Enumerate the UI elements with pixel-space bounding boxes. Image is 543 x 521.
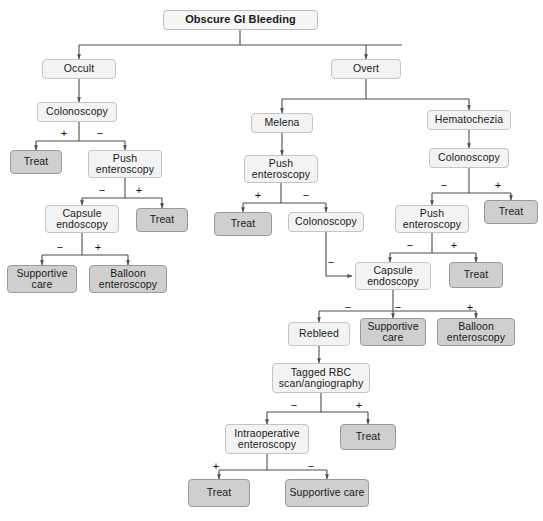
node-treat_l1: Treat [10, 150, 62, 174]
edge-colonoscopyM-capsule [326, 232, 352, 276]
node-occult: Occult [42, 59, 116, 79]
node-treat_b1: Treat [340, 424, 396, 450]
node-treat_m: Treat [214, 212, 272, 236]
node-balloon_c: Balloon enteroscopy [437, 318, 515, 346]
edge-sign-label: + [492, 180, 504, 191]
node-push_m: Push enteroscopy [244, 155, 318, 183]
node-colonoscopy_m: Colonoscopy [288, 212, 364, 232]
node-push_l: Push enteroscopy [88, 150, 162, 178]
edge-sign-label: − [288, 400, 300, 411]
edge-sign-label: + [133, 185, 145, 196]
node-supportive_l: Supportive care [7, 265, 77, 293]
node-treat_b2: Treat [188, 479, 250, 507]
node-push_r: Push enteroscopy [395, 205, 469, 233]
edge-sign-label: − [96, 185, 108, 196]
node-hematochezia: Hematochezia [427, 110, 511, 130]
edge-sign-label: + [92, 242, 104, 253]
node-capsule_c: Capsule endoscopy [355, 262, 431, 290]
node-overt: Overt [331, 59, 401, 79]
node-supportive_b: Supportive care [285, 479, 369, 507]
edge-sign-label: + [210, 461, 222, 472]
edge-sign-label: − [94, 128, 106, 139]
edge-sign-label: + [252, 190, 264, 201]
edge-sign-label: − [300, 190, 312, 201]
edge-sign-label: + [58, 128, 70, 139]
node-tagged_rbc: Tagged RBC scan/angiography [272, 363, 370, 393]
flowchart-canvas: Obscure GI BleedingOccultOvertColonoscop… [0, 0, 543, 521]
node-treat_l2: Treat [136, 208, 188, 232]
edge-sign-label: + [448, 240, 460, 251]
edge-sign-label: − [305, 461, 317, 472]
node-balloon_l: Balloon enteroscopy [89, 265, 167, 293]
node-melena: Melena [251, 113, 313, 133]
node-supportive_c: Supportive care [360, 318, 426, 346]
node-intraop: Intraoperative enteroscopy [225, 424, 309, 454]
node-treat_r2: Treat [449, 262, 503, 288]
node-colonoscopy_r: Colonoscopy [429, 148, 509, 168]
node-colonoscopy_l: Colonoscopy [37, 102, 117, 122]
edge-sign-label: − [438, 180, 450, 191]
edge-sign-label: − [392, 302, 404, 313]
edge-sign-label: + [353, 400, 365, 411]
edge-sign-label: − [54, 242, 66, 253]
edge-sign-label: − [342, 302, 354, 313]
edge-sign-label: − [404, 240, 416, 251]
edge-sign-label: + [464, 302, 476, 313]
node-root: Obscure GI Bleeding [163, 10, 318, 30]
node-capsule_l: Capsule endoscopy [45, 205, 119, 233]
node-rebleed: Rebleed [288, 322, 350, 346]
edge-sign-label: − [325, 257, 337, 268]
node-treat_r1: Treat [484, 200, 538, 224]
